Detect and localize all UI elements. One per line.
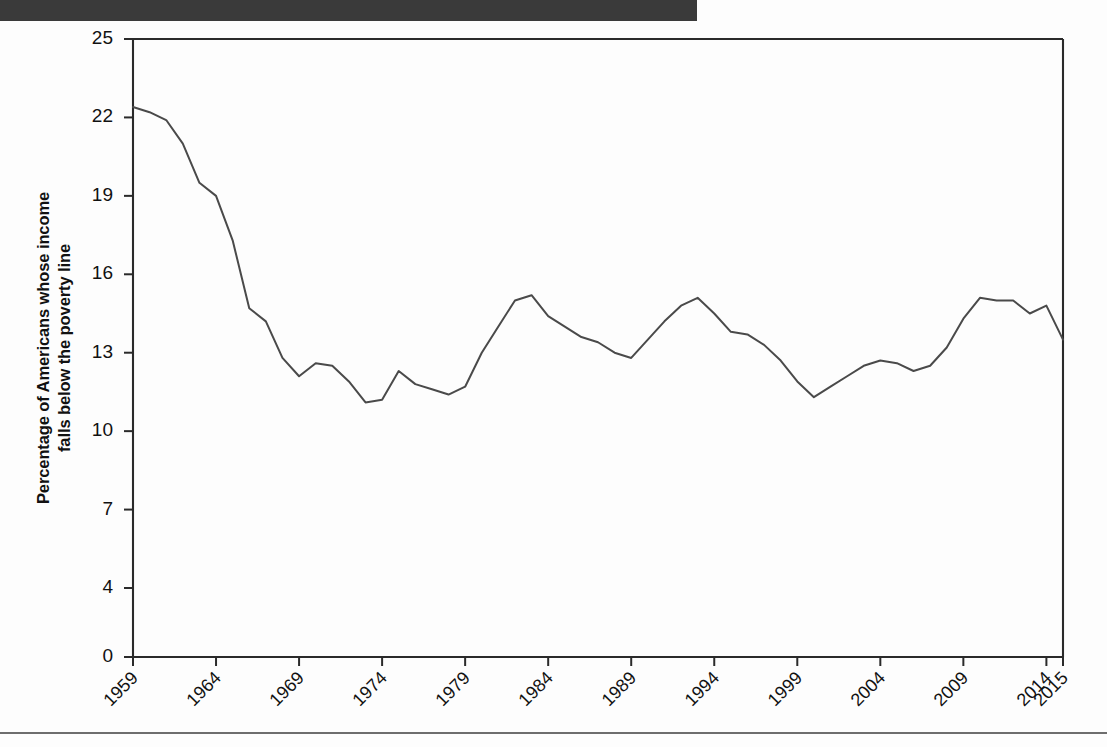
- page-root: Percentage of Americans whose income fal…: [0, 0, 1107, 747]
- chart-plot-area: 252219161310740 195919641969197419791984…: [0, 21, 1107, 732]
- y-tick-label: 4: [102, 576, 113, 597]
- chart-figure: Percentage of Americans whose income fal…: [0, 21, 1107, 732]
- y-tick-labels-group: 252219161310740: [92, 27, 114, 666]
- y-tick-label: 16: [92, 262, 113, 283]
- y-tick-label: 7: [102, 498, 113, 519]
- tick-marks-group: [124, 39, 1063, 666]
- x-tick-label: 1979: [432, 668, 474, 710]
- x-tick-labels-group: 1959196419691974197919841989199419992004…: [99, 668, 1071, 710]
- y-tick-label: 25: [92, 27, 113, 48]
- x-tick-label: 2009: [930, 668, 972, 710]
- x-tick-label: 1959: [99, 668, 141, 710]
- y-tick-label: 22: [92, 105, 113, 126]
- x-tick-label: 1964: [182, 668, 224, 710]
- x-tick-label: 1974: [348, 668, 390, 710]
- x-tick-label: 1994: [681, 668, 723, 710]
- x-tick-label: 1999: [764, 668, 806, 710]
- y-tick-label: 10: [92, 419, 113, 440]
- header-bar: [0, 0, 697, 21]
- y-tick-label: 0: [102, 645, 113, 666]
- y-tick-label: 13: [92, 341, 113, 362]
- series-line-poverty-rate: [133, 107, 1063, 402]
- x-tick-label: 2004: [847, 668, 889, 710]
- data-series-group: [133, 107, 1063, 402]
- x-tick-label: 1989: [598, 668, 640, 710]
- y-tick-label: 19: [92, 184, 113, 205]
- x-tick-label: 1969: [265, 668, 307, 710]
- axes-group: [133, 39, 1063, 657]
- x-tick-label: 1984: [515, 668, 557, 710]
- page-bottom-rule: [0, 732, 1107, 734]
